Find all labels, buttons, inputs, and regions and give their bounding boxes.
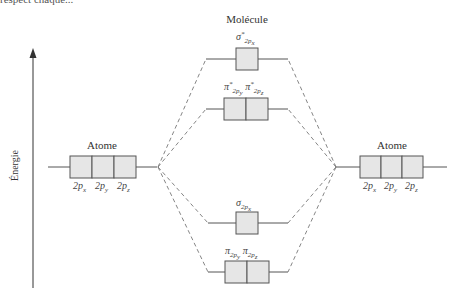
molecule-title: Molécule <box>217 13 277 25</box>
sigma-star-label: σ*2px <box>236 30 255 48</box>
sigma-label: σ2px <box>236 197 251 213</box>
right-atom-title: Atome <box>370 139 414 151</box>
pi-star-orbitals <box>206 98 288 120</box>
pi-labels: π2py π2pz <box>225 245 257 261</box>
sigma-star-orbital <box>206 48 288 70</box>
right-atom-orbitals <box>336 156 447 178</box>
right-2px-label: 2px <box>363 180 376 194</box>
sigma-orbital <box>208 212 288 234</box>
left-2pz-label: 2pz <box>117 180 130 194</box>
left-atom-orbitals <box>48 156 157 178</box>
left-atom-title: Atome <box>80 139 124 151</box>
pi-star-labels: π*2py π*2pz <box>224 80 263 98</box>
right-2pz-label: 2pz <box>405 180 418 194</box>
left-2px-label: 2px <box>73 180 86 194</box>
energy-axis-label: Énergie <box>9 146 20 186</box>
right-2py-label: 2py <box>384 180 397 194</box>
left-2py-label: 2py <box>95 180 108 194</box>
arrowhead-icon <box>30 48 37 58</box>
pi-orbitals <box>208 261 288 283</box>
